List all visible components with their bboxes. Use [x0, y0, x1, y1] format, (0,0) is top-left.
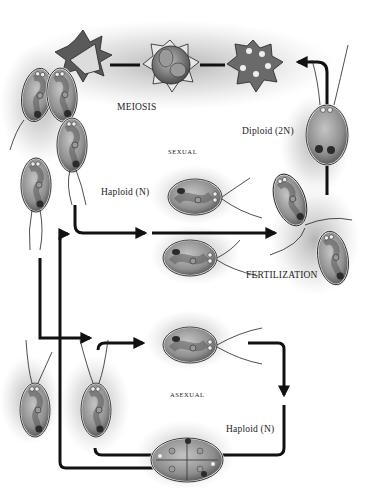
- sporangium-dividing: [151, 438, 223, 482]
- gamete-pair: [163, 178, 262, 276]
- label-haploid-asexual: Haploid (N): [226, 424, 274, 434]
- label-haploid-sexual: Haploid (N): [101, 187, 149, 197]
- label-asexual-cycle: ASEXUAL: [170, 391, 205, 398]
- label-sexual-cycle: SEXUAL: [168, 148, 197, 155]
- life-cycle-diagram: MEIOSIS SEXUAL Diploid (2N) Haploid (N) …: [0, 0, 369, 492]
- label-fertilization: FERTILIZATION: [246, 270, 318, 280]
- label-meiosis: MEIOSIS: [117, 102, 156, 112]
- diagram-artwork: [0, 0, 369, 492]
- label-diploid: Diploid (2N): [242, 126, 294, 136]
